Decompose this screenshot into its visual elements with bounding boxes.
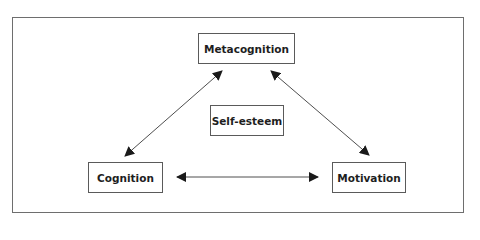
node-self-esteem: Self-esteem [210, 105, 284, 136]
node-self-esteem-label: Self-esteem [212, 115, 283, 127]
node-cognition-label: Cognition [97, 172, 154, 184]
node-cognition: Cognition [88, 162, 163, 193]
node-motivation-label: Motivation [337, 172, 401, 184]
node-metacognition-label: Metacognition [204, 43, 289, 55]
node-metacognition: Metacognition [198, 33, 295, 64]
node-motivation: Motivation [332, 162, 406, 193]
